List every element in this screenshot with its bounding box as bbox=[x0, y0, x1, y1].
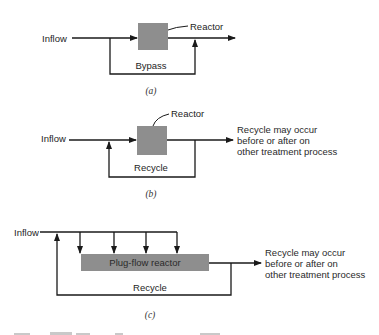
bypass-label: Bypass bbox=[135, 60, 166, 71]
inflow-label: Inflow bbox=[41, 133, 66, 144]
note-line-1: Recycle may occur bbox=[237, 124, 317, 135]
note-line-1: Recycle may occur bbox=[265, 247, 345, 258]
panel-a-caption: (a) bbox=[145, 86, 156, 97]
inflow-label: Inflow bbox=[42, 33, 67, 44]
note-line-2: before or after on bbox=[237, 135, 310, 146]
reactor-flow-diagram: Inflow Reactor Bypass (a) Inflow Reactor… bbox=[0, 0, 379, 335]
recycle-note: Recycle may occur before or after on oth… bbox=[237, 124, 338, 157]
panel-b-caption: (b) bbox=[145, 189, 156, 200]
reactor-leader-line bbox=[153, 114, 169, 126]
note-line-3: other treatment process bbox=[237, 146, 338, 157]
note-line-2: before or after on bbox=[265, 258, 338, 269]
panel-a-bypass: Inflow Reactor Bypass (a) bbox=[42, 21, 235, 97]
reactor-box bbox=[138, 23, 168, 50]
recycle-label: Recycle bbox=[134, 162, 168, 173]
note-line-3: other treatment process bbox=[265, 269, 366, 280]
recycle-label: Recycle bbox=[133, 282, 167, 293]
plug-flow-reactor-label: Plug-flow reactor bbox=[109, 257, 180, 268]
inflow-label: Inflow bbox=[14, 227, 39, 238]
panel-c-caption: (c) bbox=[145, 310, 156, 321]
reactor-box bbox=[137, 126, 167, 155]
reactor-label: Reactor bbox=[171, 108, 204, 119]
reactor-label: Reactor bbox=[190, 21, 223, 32]
reactor-leader-line bbox=[168, 26, 188, 30]
panel-c-plug-flow: Inflow Plug-flow reactor Recycle Recycle… bbox=[14, 227, 366, 322]
recycle-note: Recycle may occur before or after on oth… bbox=[265, 247, 366, 280]
panel-b-recycle: Inflow Reactor Recycle Recycle may occur… bbox=[41, 108, 338, 200]
